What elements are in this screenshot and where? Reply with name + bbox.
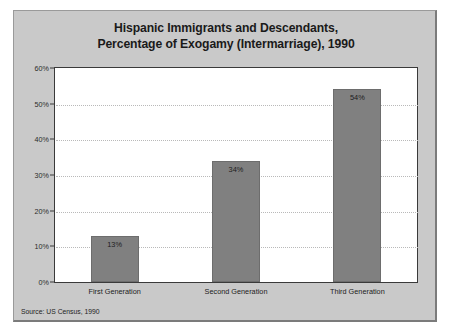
y-tick-mark <box>50 103 54 104</box>
x-axis-category-label: Third Generation <box>330 287 385 296</box>
y-tick-label: 30% <box>35 171 49 180</box>
y-tick-label: 40% <box>35 135 49 144</box>
y-tick-label: 50% <box>35 99 49 108</box>
bar: 13% <box>91 236 139 282</box>
y-tick-mark <box>50 139 54 140</box>
bar-value-label: 13% <box>92 240 138 249</box>
y-tick-label: 60% <box>35 64 49 73</box>
y-tick-mark <box>50 68 54 69</box>
y-tick-mark <box>50 282 54 283</box>
bar-value-label: 54% <box>334 93 380 102</box>
chart-title-line-2: Percentage of Exogamy (Intermarriage), 1… <box>14 36 438 52</box>
bar: 34% <box>212 161 260 282</box>
bar-value-label: 34% <box>213 165 259 174</box>
y-tick-mark <box>50 175 54 176</box>
y-tick-label: 10% <box>35 242 49 251</box>
chart-title: Hispanic Immigrants and Descendants, Per… <box>14 20 438 52</box>
y-tick-mark <box>50 210 54 211</box>
bar: 54% <box>333 89 381 282</box>
x-axis-labels: First GenerationSecond GenerationThird G… <box>54 287 418 301</box>
y-tick-label: 20% <box>35 206 49 215</box>
y-tick-mark <box>50 246 54 247</box>
x-axis-category-label: Second Generation <box>205 287 268 296</box>
chart-figure: Hispanic Immigrants and Descendants, Per… <box>0 0 449 332</box>
y-tick-label: 0% <box>39 278 49 287</box>
x-axis-category-label: First Generation <box>88 287 140 296</box>
chart-title-line-1: Hispanic Immigrants and Descendants, <box>14 20 438 36</box>
chart-panel: Hispanic Immigrants and Descendants, Per… <box>13 10 437 322</box>
plot-wrapper: 0%10%20%30%40%50%60% 13%34%54% <box>54 67 418 283</box>
source-note: Source: US Census, 1990 <box>21 308 100 315</box>
